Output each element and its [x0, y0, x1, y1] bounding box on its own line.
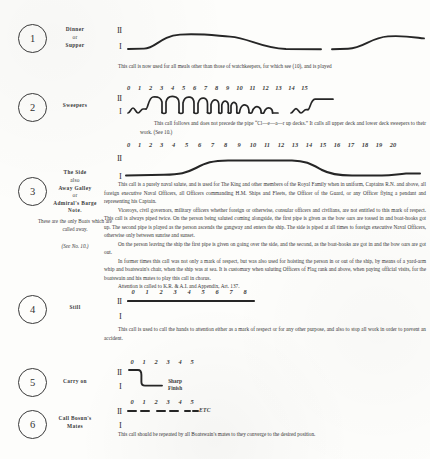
ruler-tick: 15 [316, 141, 330, 148]
call-name-line: Still [38, 304, 112, 312]
caption-paragraph: This call is used to call the hands to a… [104, 325, 426, 342]
ruler-tick: 16 [330, 141, 344, 148]
stave-label-upper-5: II [117, 367, 122, 377]
stave-label-upper-1: II [117, 25, 122, 35]
ruler-tick: 3 [156, 84, 167, 91]
ruler-tick: 4 [167, 141, 180, 148]
call-ruler-3: 01234567891011121314151617181920 [123, 141, 400, 148]
caption-paragraph: This call follows and does not precede t… [140, 119, 426, 136]
call-ruler-2: 0123456789101112131415 [123, 84, 311, 91]
ruler-tick: 3 [162, 398, 174, 405]
document-page: 1 Dinner or Supper II I This call is now… [0, 0, 430, 459]
ruler-tick: 2 [150, 358, 162, 365]
call-name-line: The Side [38, 169, 112, 177]
ruler-tick: 1 [134, 141, 145, 148]
ruler-tick: 7 [200, 84, 211, 91]
ruler-tick: 13 [272, 84, 285, 91]
ruler-tick: 7 [206, 141, 219, 148]
ruler-tick: 5 [186, 358, 198, 365]
call-caption-6: This call should be repeated by all Boat… [104, 430, 426, 439]
ruler-tick: 9 [222, 84, 233, 91]
call-body-3: This call is a purely naval salute, and … [104, 180, 426, 291]
ruler-tick: 4 [174, 398, 186, 405]
call-see-reference-3: (See No. 10.) [38, 243, 112, 249]
call-name-5: Carry on [38, 378, 112, 386]
call-name-4: Still [38, 304, 112, 312]
ruler-tick: 1 [138, 398, 150, 405]
ruler-tick: 3 [162, 358, 174, 365]
call-waveform-1 [126, 26, 426, 54]
ruler-tick: 5 [186, 398, 198, 405]
call-name-6: Call Bosun's Mates [38, 415, 112, 431]
ruler-tick: 0 [126, 358, 138, 365]
ruler-tick: 10 [246, 141, 260, 148]
call-name-line: Supper [38, 42, 112, 50]
ruler-tick: 2 [145, 141, 156, 148]
ruler-tick: 5 [178, 84, 189, 91]
ruler-tick: 10 [233, 84, 246, 91]
call-name-2: Sweepers [38, 102, 112, 110]
ruler-tick: 15 [298, 84, 311, 91]
call-name-1: Dinner or Supper [38, 26, 112, 49]
stave-label-upper-2: II [117, 93, 122, 103]
ruler-tick: 0 [123, 84, 134, 91]
body-paragraph: In former times this call was not only a… [104, 257, 426, 283]
ruler-tick: 11 [246, 84, 259, 91]
ruler-tick: 19 [372, 141, 386, 148]
stave-label-upper-3: II [117, 153, 122, 163]
annotation-line: Finish [168, 385, 182, 392]
call-waveform-2 [126, 92, 336, 118]
annotation-line: Sharp [168, 378, 182, 385]
ruler-tick: 4 [167, 84, 178, 91]
ruler-tick: 17 [344, 141, 358, 148]
ruler-tick: 6 [189, 84, 200, 91]
ruler-tick: 0 [123, 141, 134, 148]
call-name-line: Dinner [38, 26, 112, 34]
call-name-3: The Side also Away Galley or Admiral's B… [38, 169, 112, 208]
call-ruler-6: 012345 [126, 398, 198, 405]
call-ruler-4: 012345678 [126, 288, 252, 295]
ruler-tick: 5 [180, 141, 193, 148]
ruler-tick: 13 [288, 141, 302, 148]
ruler-tick: 9 [232, 141, 246, 148]
call-caption-4: This call is used to call the hands to a… [104, 325, 426, 342]
call-etc-label-6: ETC [199, 407, 211, 413]
caption-paragraph: This call should be repeated by all Boat… [104, 430, 426, 439]
ruler-tick: 2 [145, 84, 156, 91]
ruler-tick: 0 [126, 398, 138, 405]
call-annotation-5: Sharp Finish [168, 378, 182, 392]
call-name-line: or [38, 192, 112, 200]
ruler-tick: 5 [196, 288, 210, 295]
ruler-tick: 2 [154, 288, 168, 295]
stave-label-upper-6: II [117, 406, 122, 416]
body-paragraph: This call is a purely naval salute, and … [104, 180, 426, 206]
ruler-tick: 0 [126, 288, 140, 295]
stave-label-lower-1: I [119, 41, 121, 51]
call-name-line: or [38, 34, 112, 42]
ruler-tick: 14 [302, 141, 316, 148]
call-name-line: also [38, 177, 112, 185]
call-note-heading-3: Note. [38, 207, 112, 213]
body-paragraph: On the person leaving the ship the first… [104, 240, 426, 257]
stave-label-upper-4: II [117, 296, 122, 306]
call-name-line: Carry on [38, 378, 112, 386]
ruler-tick: 3 [168, 288, 182, 295]
call-name-line: Away Galley [38, 185, 112, 193]
ruler-tick: 1 [140, 288, 154, 295]
ruler-tick: 4 [182, 288, 196, 295]
ruler-tick: 6 [210, 288, 224, 295]
ruler-tick: 2 [150, 398, 162, 405]
ruler-tick: 18 [358, 141, 372, 148]
ruler-tick: 12 [274, 141, 288, 148]
call-waveform-6 [127, 406, 207, 420]
ruler-tick: 14 [285, 84, 298, 91]
stave-label-lower-5: I [119, 381, 121, 391]
ruler-tick: 1 [134, 84, 145, 91]
ruler-tick: 20 [386, 141, 400, 148]
stave-label-lower-6: I [119, 420, 121, 430]
caption-paragraph: This call is now used for all meals othe… [104, 62, 426, 71]
ruler-tick: 4 [174, 358, 186, 365]
call-waveform-3 [124, 152, 424, 180]
ruler-tick: 3 [156, 141, 167, 148]
ruler-tick: 8 [211, 84, 222, 91]
